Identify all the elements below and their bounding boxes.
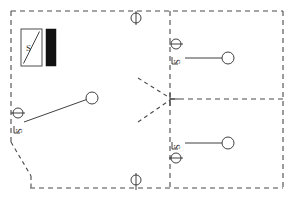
floor-plan-canvas: S S S [0, 0, 294, 199]
lamp-bottom-right-icon[interactable] [222, 137, 234, 149]
lamp-top-right-icon[interactable] [222, 52, 234, 64]
switch-label-bottom-right: S [172, 144, 182, 149]
door-leaf-upper [138, 78, 170, 98]
distribution-panel-assembly[interactable]: S [21, 29, 56, 66]
top-right-room-circuit[interactable]: S [169, 39, 234, 64]
circuit-line-left [24, 99, 88, 122]
bottom-right-room-circuit[interactable]: S [169, 137, 234, 163]
switch-label-top-right: S [172, 59, 182, 64]
panel-label: S [26, 43, 31, 53]
double-door-swing [138, 78, 179, 122]
wall-chamfer-bottom-left [11, 142, 31, 176]
lamp-left-icon[interactable] [86, 92, 98, 104]
switch-label-left: S [14, 128, 24, 133]
ceiling-fixture-top-assembly[interactable] [131, 11, 141, 25]
panel-busbar [46, 29, 56, 66]
door-leaf-lower [138, 100, 170, 122]
left-room-circuit[interactable]: S [11, 92, 98, 133]
floor-plan-drawing: S S S [0, 0, 294, 199]
